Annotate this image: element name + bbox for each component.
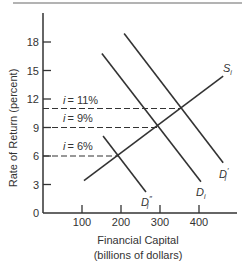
y-tick-label: 3 [33, 179, 39, 191]
x-tick-label: 400 [190, 216, 208, 228]
y-tick-label: 0 [33, 207, 39, 219]
x-axis-subtitle: (billions of dollars) [94, 249, 183, 261]
supply-curve [84, 76, 223, 181]
demand-double-prime-curve [103, 136, 146, 192]
y-tick-label: 15 [27, 65, 39, 77]
x-tick-label: 200 [112, 216, 130, 228]
label-i-6: i= 6% [63, 140, 93, 152]
demand-double-prime-curve-label: D″i [141, 194, 153, 210]
demand-prime-curve-label: D′i [219, 166, 229, 182]
x-tick-label: 300 [151, 216, 169, 228]
label-i-9: i= 9% [63, 112, 93, 124]
demand-prime-curve [124, 33, 223, 162]
demand-curve-label: Di [196, 186, 206, 200]
x-axis-title: Financial Capital [97, 234, 178, 246]
y-axis-title: Rate of Return (percent) [7, 69, 19, 188]
supply-curve-label: Si [223, 62, 232, 76]
chart-canvas: 0369121518 100200300400 Si Di D′i D″i i=… [0, 0, 251, 268]
interest-rate-labels: i= 11% i= 9% i= 6% [63, 94, 98, 152]
y-tick-label: 6 [33, 150, 39, 162]
x-tick-label: 100 [73, 216, 91, 228]
demand-curve [102, 53, 201, 181]
curve-labels: Si Di D′i D″i [141, 62, 232, 210]
y-tick-label: 18 [27, 36, 39, 48]
y-tick-label: 9 [33, 122, 39, 134]
curves [84, 33, 223, 192]
label-i-11: i= 11% [63, 94, 98, 106]
x-ticks: 100200300400 [73, 205, 208, 228]
y-tick-label: 12 [27, 93, 39, 105]
